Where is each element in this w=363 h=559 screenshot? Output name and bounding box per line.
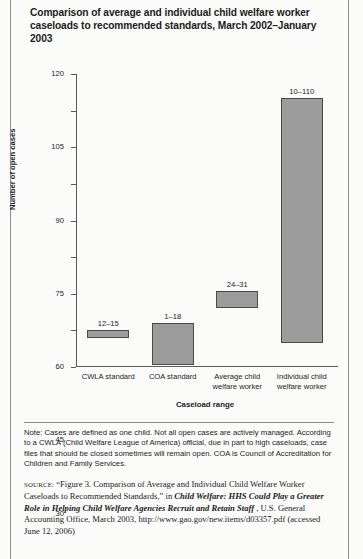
y-axis-tick: 75 [71,184,76,185]
figure-source: source: “Figure 3. Comparison of Average… [24,479,338,538]
bar-chart: Number of open cases 0153045607590105120… [14,62,348,410]
page-margin-rule-right [348,0,349,559]
y-axis-line [76,74,77,367]
y-axis-title: Number of open cases [8,129,17,210]
bar [152,323,194,365]
y-axis-tick: 45 [71,257,76,258]
y-axis-tick-label: 60 [56,363,64,371]
x-axis-category-label: COA standard [143,372,204,382]
y-axis-tick: 0 [71,367,76,368]
bar [281,98,323,342]
x-axis-line [76,366,338,367]
bar-value-label: 24–31 [227,280,248,289]
bar [87,330,129,337]
figure-page: { "figure": { "title": "Comparison of av… [0,0,363,559]
figure-title: Comparison of average and individual chi… [30,6,330,46]
x-axis-title: Caseload range [76,400,334,409]
y-axis-tick: 105 [71,111,76,112]
bar-value-label: 12–15 [98,319,119,328]
figure-note: Note: Cases are defined as one child. No… [24,428,338,470]
x-axis-category-label: Average child welfare worker [207,372,268,391]
y-axis-tick-label: 90 [56,217,64,225]
y-axis-tick: 120 [71,74,76,75]
bar [216,291,258,308]
x-axis-category-label: Individual child welfare worker [272,372,333,391]
y-axis-tick: 15 [71,330,76,331]
y-axis-tick-label: 105 [51,143,64,151]
plot-area: 015304560759010512012–15CWLA standard1–1… [76,74,334,367]
bar-value-label: 10–110 [289,87,314,96]
y-axis-tick: 30 [71,294,76,295]
y-axis-tick: 90 [71,147,76,148]
source-label: source: [24,481,54,488]
y-axis-tick-label: 75 [56,290,64,298]
y-axis-tick: 60 [71,221,76,222]
y-axis-tick-label: 120 [51,70,64,78]
page-margin-rule-left [10,0,11,559]
x-axis-category-label: CWLA standard [78,372,139,382]
section-divider [24,422,334,423]
bar-value-label: 1–18 [164,312,181,321]
